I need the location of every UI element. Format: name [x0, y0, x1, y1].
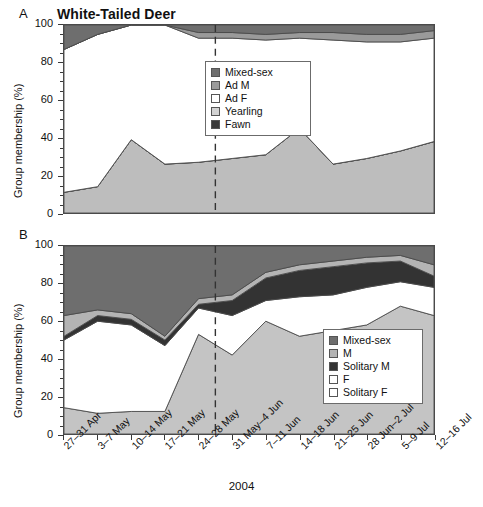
legend-b-item: F	[329, 373, 416, 386]
panel-b-y-minor-tick	[60, 350, 63, 351]
panel-b-y-minor-tick	[60, 274, 63, 275]
panel-a-y-minor-tick	[60, 129, 63, 130]
legend-swatch-icon	[329, 349, 338, 358]
panel-a-y-minor-tick	[60, 157, 63, 158]
panel-b-y-label-100: 100	[23, 238, 53, 250]
legend-a-label: Fawn	[225, 118, 251, 131]
panel-a-y-tick-40	[58, 138, 63, 139]
legend-a-item: Ad M	[211, 79, 304, 92]
panel-a-y-minor-tick	[60, 91, 63, 92]
panel-a-y-label-40: 40	[23, 131, 53, 143]
panel-a-y-tick-20	[58, 176, 63, 177]
panel-b-y-tick-60	[58, 321, 63, 322]
panel-a-y-label-100: 100	[23, 17, 53, 29]
legend-a-item: Yearling	[211, 105, 304, 118]
x-axis-caption: 2004	[0, 480, 483, 492]
panel-b-y-tick-40	[58, 359, 63, 360]
panel-b-y-label-80: 80	[23, 276, 53, 288]
panel-a-y-tick-60	[58, 100, 63, 101]
panel-b-y-minor-tick	[60, 302, 63, 303]
legend-swatch-icon	[329, 362, 338, 371]
legend-swatch-icon	[211, 120, 220, 129]
legend-b-label: F	[343, 373, 349, 386]
panel-a-y-minor-tick	[60, 110, 63, 111]
legend-a-label: Ad F	[225, 92, 247, 105]
panel-b-y-minor-tick	[60, 312, 63, 313]
legend-a-label: Mixed-sex	[225, 66, 273, 79]
panel-b-y-tick-80	[58, 283, 63, 284]
legend-swatch-icon	[211, 81, 220, 90]
panel-a-y-minor-tick	[60, 205, 63, 206]
panel-b-y-minor-tick	[60, 378, 63, 379]
legend-a-label: Ad M	[225, 79, 250, 92]
legend-swatch-icon	[211, 68, 220, 77]
legend-a-item: Mixed-sex	[211, 66, 304, 79]
panel-a-y-minor-tick	[60, 81, 63, 82]
panel-b-y-tick-20	[58, 397, 63, 398]
panel-a-legend: Mixed-sexAd MAd FYearlingFawn	[205, 61, 311, 136]
panel-b-y-label-40: 40	[23, 352, 53, 364]
panel-b-y-label-0: 0	[23, 428, 53, 440]
legend-b-label: Mixed-sex	[343, 334, 391, 347]
panel-a-y-tick-0	[58, 214, 63, 215]
legend-b-label: M	[343, 347, 352, 360]
legend-swatch-icon	[329, 375, 338, 384]
legend-swatch-icon	[211, 94, 220, 103]
panel-a-y-label-0: 0	[23, 207, 53, 219]
legend-b-item: Mixed-sex	[329, 334, 416, 347]
figure-container: A White-Tailed Deer Group membership (%)…	[0, 0, 483, 507]
panel-a-y-label-60: 60	[23, 93, 53, 105]
panel-a-y-tick-100	[58, 24, 63, 25]
legend-b-label: Solitary M	[343, 360, 390, 373]
panel-a-y-minor-tick	[60, 148, 63, 149]
legend-a-item: Fawn	[211, 118, 304, 131]
legend-swatch-icon	[329, 388, 338, 397]
legend-b-label: Solitary F	[343, 386, 387, 399]
panel-b-y-minor-tick	[60, 416, 63, 417]
x-axis-label-11: 12–16 Jul	[433, 411, 474, 452]
legend-b-item: Solitary F	[329, 386, 416, 399]
legend-a-label: Yearling	[225, 105, 263, 118]
panel-b-y-minor-tick	[60, 293, 63, 294]
legend-swatch-icon	[211, 107, 220, 116]
legend-swatch-icon	[329, 336, 338, 345]
panel-b-y-minor-tick	[60, 264, 63, 265]
legend-a-item: Ad F	[211, 92, 304, 105]
panel-a-y-minor-tick	[60, 186, 63, 187]
panel-b-y-minor-tick	[60, 388, 63, 389]
panel-b-y-minor-tick	[60, 331, 63, 332]
panel-a-y-minor-tick	[60, 119, 63, 120]
panel-b-y-minor-tick	[60, 369, 63, 370]
chart-title: White-Tailed Deer	[57, 6, 176, 22]
panel-a-y-tick-80	[58, 62, 63, 63]
panel-b-y-minor-tick	[60, 340, 63, 341]
panel-a-y-minor-tick	[60, 72, 63, 73]
panel-a-y-minor-tick	[60, 34, 63, 35]
panel-b-y-tick-100	[58, 245, 63, 246]
legend-b-item: Solitary M	[329, 360, 416, 373]
panel-b-y-label-60: 60	[23, 314, 53, 326]
panel-b-legend: Mixed-sexMSolitary MFSolitary F	[323, 329, 423, 404]
panel-a-y-minor-tick	[60, 53, 63, 54]
panel-b-y-minor-tick	[60, 255, 63, 256]
panel-a-y-label-80: 80	[23, 55, 53, 67]
panel-a-y-minor-tick	[60, 43, 63, 44]
panel-b-y-label-20: 20	[23, 390, 53, 402]
panel-b-y-minor-tick	[60, 426, 63, 427]
legend-b-item: M	[329, 347, 416, 360]
panel-a-y-label-20: 20	[23, 169, 53, 181]
panel-a-y-minor-tick	[60, 195, 63, 196]
panel-b-y-minor-tick	[60, 407, 63, 408]
panel-a-y-minor-tick	[60, 167, 63, 168]
